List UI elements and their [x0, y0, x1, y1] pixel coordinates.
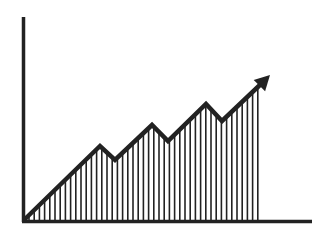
trend-chart	[0, 0, 332, 238]
hatch-fill	[29, 87, 258, 220]
